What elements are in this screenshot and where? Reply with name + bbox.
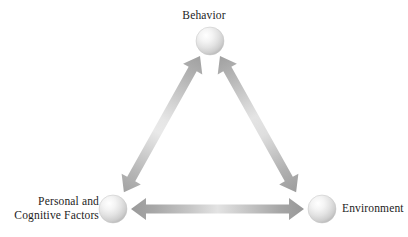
connector-personal-environment — [131, 198, 304, 220]
node-label-behavior: Behavior — [0, 9, 408, 23]
diagram-canvas: Behavior Personal andCognitive Factors E… — [0, 0, 408, 237]
node-personal-sphere[interactable] — [99, 195, 127, 223]
node-label-personal-cognitive-factors: Personal andCognitive Factors — [0, 195, 99, 222]
node-behavior-sphere[interactable] — [196, 27, 224, 55]
connector-behavior-personal — [114, 51, 209, 198]
node-environment-sphere[interactable] — [308, 195, 336, 223]
node-label-environment: Environment — [342, 202, 404, 216]
node-label-personal-line1: Personal and — [38, 195, 99, 207]
node-label-personal-line2: Cognitive Factors — [0, 209, 99, 223]
connector-behavior-environment — [210, 51, 305, 198]
